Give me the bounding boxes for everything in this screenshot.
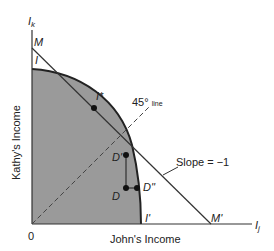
- point-d: [123, 185, 129, 191]
- label-m-prime: M': [211, 212, 223, 224]
- point-d-prime: [123, 152, 129, 158]
- point-d-double-prime: [134, 185, 140, 191]
- label-d-double-prime: D'': [143, 181, 156, 193]
- point-i-star: [91, 105, 97, 111]
- origin-label: 0: [28, 230, 34, 242]
- label-i: I: [35, 54, 38, 66]
- feasible-region: [32, 69, 141, 224]
- slope-pointer: [163, 167, 178, 175]
- x-axis-label: John's Income: [110, 233, 181, 245]
- label-d: D: [112, 190, 120, 202]
- slope-label: Slope = −1: [176, 156, 229, 168]
- label-i-prime: I': [145, 212, 151, 224]
- label-45-line: 45°line: [132, 96, 163, 108]
- label-i-star: I*: [96, 90, 104, 102]
- label-m: M: [34, 36, 44, 48]
- utility-possibilities-diagram: Ik Ij M I I* D' D D'' I' M' 45°line Slop…: [0, 0, 274, 251]
- label-d-prime: D': [112, 151, 123, 163]
- y-axis-symbol: Ik: [28, 15, 36, 29]
- y-axis-label: Kathy's Income: [10, 105, 22, 180]
- x-axis-symbol: Ij: [255, 219, 260, 233]
